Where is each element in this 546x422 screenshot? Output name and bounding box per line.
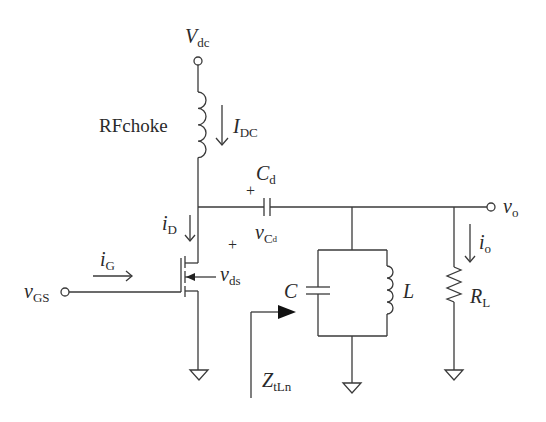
cd-capacitor-icon: [264, 198, 270, 216]
lc-tank: [318, 207, 387, 383]
rl-resistor-icon: [447, 267, 461, 302]
l-inductor-icon: [387, 266, 393, 314]
vds-label: vds: [220, 264, 240, 287]
rfchoke-label: RFchoke: [99, 116, 168, 135]
cd-plus-sign: +: [246, 183, 255, 199]
load-branch: [447, 207, 461, 370]
ground-icon: [445, 370, 463, 380]
cd-label: Cd: [256, 163, 276, 186]
drain-wire: [198, 203, 495, 211]
mosfet-icon: [181, 256, 216, 370]
io-label: io: [479, 232, 491, 255]
ztln-label: ZtLn: [262, 370, 291, 393]
vo-label: vo: [503, 196, 518, 219]
rf-choke-inductor-icon: [198, 92, 206, 207]
vgs-label: vGS: [24, 281, 50, 304]
io-arrow-icon: [465, 224, 475, 262]
ground-icon: [190, 370, 208, 380]
schematic-drawing: [0, 0, 546, 422]
circuit-diagram: Vdc RFchoke IDC + Cd vCd iD + vds iG vGS…: [0, 0, 546, 422]
vdc-terminal: [194, 57, 202, 92]
idc-label: IDC: [233, 116, 258, 139]
vcd-label: vCd: [255, 222, 277, 245]
idc-arrow-icon: [216, 105, 228, 145]
rl-label: RL: [470, 286, 490, 309]
l-label: L: [403, 281, 414, 301]
gate-wire: [61, 288, 181, 296]
c-label: C: [284, 281, 297, 301]
id-label: iD: [162, 213, 177, 236]
ig-label: iG: [100, 249, 115, 272]
c-capacitor-icon: [306, 287, 330, 294]
vdc-label: Vdc: [185, 26, 210, 49]
vds-plus-sign: +: [228, 237, 237, 253]
id-arrow-icon: [185, 215, 195, 241]
ground-icon: [343, 383, 361, 393]
